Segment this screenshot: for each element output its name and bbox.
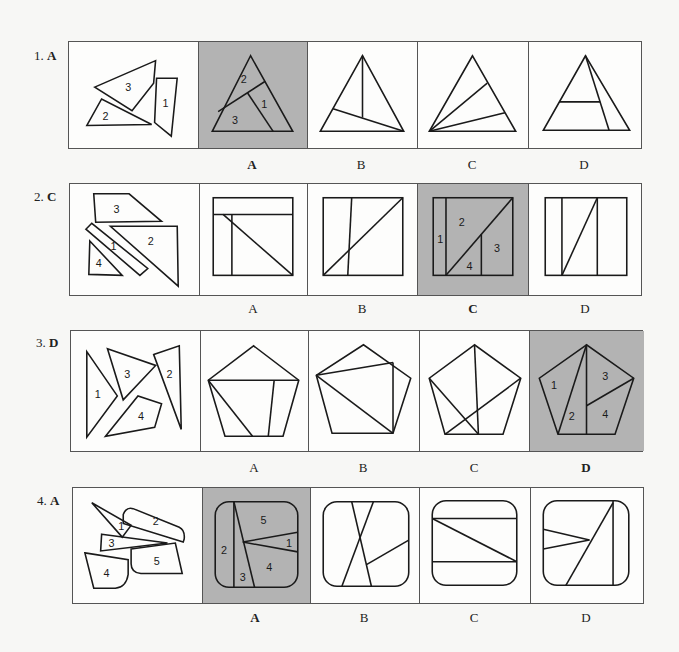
option-d-cell[interactable] bbox=[528, 42, 643, 148]
option-d-figure bbox=[529, 184, 643, 295]
problem-3-label: 3. D bbox=[36, 335, 58, 351]
piece-3-shape bbox=[94, 194, 162, 222]
option-c-label: C bbox=[459, 610, 489, 626]
piece-label: 1 bbox=[261, 98, 267, 110]
problem-answer: D bbox=[49, 335, 58, 350]
piece-label: 1 bbox=[437, 233, 443, 245]
option-a-figure: 2 1 3 bbox=[199, 42, 307, 148]
piece-label: 1 bbox=[110, 240, 116, 252]
option-b-figure bbox=[311, 488, 419, 603]
piece-1-shape bbox=[92, 503, 131, 537]
option-b-cell[interactable] bbox=[308, 331, 419, 451]
option-d-cell[interactable] bbox=[530, 488, 645, 603]
piece-label: 2 bbox=[221, 544, 227, 556]
pieces-cell: 3 2 1 bbox=[69, 42, 198, 148]
piece-label: 4 bbox=[104, 567, 110, 579]
piece-label: 1 bbox=[286, 537, 292, 549]
pieces-figure: 3 2 1 bbox=[69, 42, 198, 148]
piece-label: 2 bbox=[569, 410, 575, 422]
piece-label: 3 bbox=[494, 242, 500, 254]
piece-label: 3 bbox=[113, 203, 119, 215]
option-d-label: D bbox=[571, 460, 601, 476]
option-a-label: A bbox=[237, 157, 267, 173]
pieces-figure: 3 1 2 4 bbox=[70, 184, 199, 295]
option-c-cell[interactable] bbox=[417, 42, 528, 148]
pieces-figure: 1 3 2 4 bbox=[71, 331, 200, 451]
option-c-figure bbox=[418, 42, 528, 148]
pieces-cell: 3 1 2 4 bbox=[70, 184, 199, 295]
piece-label: 4 bbox=[96, 257, 102, 269]
option-a-label: A bbox=[238, 301, 268, 317]
option-d-label: D bbox=[571, 610, 601, 626]
option-a-cell[interactable]: 5 2 1 3 4 bbox=[202, 488, 310, 603]
piece-label: 3 bbox=[240, 571, 246, 583]
piece-label: 4 bbox=[266, 561, 272, 573]
piece-label: 2 bbox=[166, 368, 172, 380]
pieces-cell: 1 2 3 4 5 bbox=[73, 488, 202, 603]
piece-label: 1 bbox=[95, 388, 101, 400]
option-c-figure bbox=[420, 488, 530, 603]
option-d-cell[interactable] bbox=[528, 184, 643, 295]
problem-2-frame: 3 1 2 4 1 2 3 4 bbox=[69, 183, 642, 296]
pieces-cell: 1 3 2 4 bbox=[71, 331, 200, 451]
piece-label: 5 bbox=[154, 555, 160, 567]
problem-2-label: 2. C bbox=[34, 189, 56, 205]
option-a-label: A bbox=[240, 610, 270, 626]
problem-number: 2. bbox=[34, 189, 44, 204]
problem-number: 4. bbox=[37, 493, 47, 508]
option-c-cell[interactable] bbox=[419, 331, 529, 451]
problem-4-label: 4. A bbox=[37, 493, 59, 509]
problem-answer: A bbox=[50, 493, 59, 508]
option-a-figure bbox=[201, 331, 308, 451]
option-a-cell[interactable] bbox=[199, 184, 307, 295]
option-a-figure bbox=[200, 184, 307, 295]
option-c-cell[interactable] bbox=[419, 488, 530, 603]
piece-label: 2 bbox=[459, 216, 465, 228]
option-d-figure: 1 2 3 4 bbox=[530, 331, 644, 451]
piece-4-shape bbox=[106, 396, 162, 436]
option-b-label: B bbox=[348, 460, 378, 476]
problem-number: 3. bbox=[36, 335, 46, 350]
option-c-label: C bbox=[457, 157, 487, 173]
option-b-cell[interactable] bbox=[310, 488, 419, 603]
piece-2-shape bbox=[110, 226, 178, 286]
piece-label: 2 bbox=[153, 515, 159, 527]
problem-1-label: 1. A bbox=[34, 48, 56, 64]
option-b-label: B bbox=[346, 157, 376, 173]
option-a-label: A bbox=[239, 460, 269, 476]
option-c-label: C bbox=[459, 460, 489, 476]
option-b-label: B bbox=[347, 301, 377, 317]
option-b-cell[interactable] bbox=[307, 184, 417, 295]
option-c-figure: 1 2 3 4 bbox=[418, 184, 528, 295]
option-d-cell[interactable]: 1 2 3 4 bbox=[529, 331, 644, 451]
option-a-cell[interactable]: 2 1 3 bbox=[198, 42, 307, 148]
option-d-figure bbox=[531, 488, 645, 603]
problem-answer: C bbox=[47, 189, 56, 204]
option-b-label: B bbox=[349, 610, 379, 626]
piece-label: 4 bbox=[138, 410, 144, 422]
piece-label: 2 bbox=[148, 235, 154, 247]
piece-label: 4 bbox=[467, 260, 473, 272]
piece-label: 3 bbox=[602, 370, 608, 382]
problem-number: 1. bbox=[34, 48, 44, 63]
piece-label: 4 bbox=[602, 408, 608, 420]
piece-label: 3 bbox=[232, 114, 238, 126]
option-c-cell[interactable]: 1 2 3 4 bbox=[417, 184, 528, 295]
piece-label: 1 bbox=[162, 97, 168, 109]
option-d-figure bbox=[529, 42, 643, 148]
piece-label: 3 bbox=[109, 537, 115, 549]
problem-4-frame: 1 2 3 4 5 5 2 1 3 4 bbox=[72, 487, 644, 604]
piece-label: 1 bbox=[551, 379, 557, 391]
option-c-figure bbox=[420, 331, 529, 451]
problem-answer: A bbox=[47, 48, 56, 63]
option-a-cell[interactable] bbox=[200, 331, 308, 451]
option-d-label: D bbox=[570, 301, 600, 317]
option-a-figure: 5 2 1 3 4 bbox=[203, 488, 310, 603]
problem-3-frame: 1 3 2 4 bbox=[70, 330, 643, 452]
piece-label: 3 bbox=[124, 368, 130, 380]
piece-label: 1 bbox=[118, 520, 124, 532]
piece-label: 3 bbox=[125, 81, 131, 93]
option-b-cell[interactable] bbox=[307, 42, 417, 148]
problem-1-frame: 3 2 1 2 1 3 bbox=[68, 41, 642, 149]
option-d-label: D bbox=[569, 157, 599, 173]
